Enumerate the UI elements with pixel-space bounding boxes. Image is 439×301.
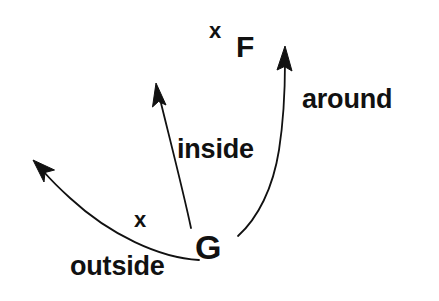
point-label-f: F: [236, 32, 254, 62]
point-label-g: G: [195, 230, 221, 264]
arrow-outside: [33, 160, 199, 260]
spatial-relations-diagram: x x F G inside around outside: [0, 0, 439, 301]
arrow-label-inside: inside: [177, 136, 254, 163]
arrow-label-outside: outside: [70, 253, 165, 280]
x-marker-bottom: x: [134, 209, 146, 231]
arrow-outside-shaft: [44, 172, 199, 260]
x-marker-top: x: [209, 20, 221, 42]
arrow-label-around: around: [302, 86, 392, 113]
arrow-inside-head: [153, 83, 167, 107]
